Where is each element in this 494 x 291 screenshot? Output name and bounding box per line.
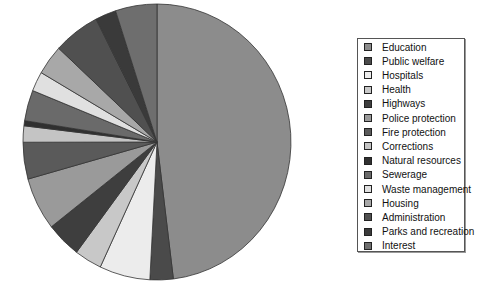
legend-label: Waste management — [382, 184, 471, 195]
legend-item-sewerage: Sewerage — [358, 168, 427, 182]
legend-swatch — [364, 71, 372, 79]
legend-item-corrections: Corrections — [358, 139, 433, 153]
legend-label: Interest — [382, 240, 415, 251]
legend-label: Highways — [382, 98, 425, 109]
legend-item-highways: Highways — [358, 97, 425, 111]
legend-swatch — [364, 228, 372, 236]
legend-label: Health — [382, 84, 411, 95]
legend-item-waste-management: Waste management — [358, 182, 471, 196]
legend-swatch — [364, 128, 372, 136]
legend-item-police-protection: Police protection — [358, 111, 456, 125]
legend-label: Education — [382, 42, 426, 53]
legend-swatch — [364, 100, 372, 108]
legend-label: Fire protection — [382, 127, 446, 138]
legend-swatch — [364, 157, 372, 165]
legend-label: Sewerage — [382, 169, 427, 180]
legend-item-interest: Interest — [358, 239, 415, 253]
legend-item-education: Education — [358, 40, 426, 54]
legend-item-natural-resources: Natural resources — [358, 154, 461, 168]
legend-swatch — [364, 185, 372, 193]
legend-label: Police protection — [382, 113, 456, 124]
legend-item-hospitals: Hospitals — [358, 68, 423, 82]
legend-swatch — [364, 114, 372, 122]
legend-item-public-welfare: Public welfare — [358, 54, 444, 68]
legend-item-housing: Housing — [358, 196, 419, 210]
legend-swatch — [364, 57, 372, 65]
pie-slice-education — [157, 4, 291, 279]
legend-label: Parks and recreation — [382, 226, 474, 237]
chart-legend: Education Public welfare Hospitals Healt… — [357, 38, 465, 252]
legend-swatch — [364, 171, 372, 179]
legend-item-administration: Administration — [358, 210, 445, 224]
legend-swatch — [364, 86, 372, 94]
legend-swatch — [364, 213, 372, 221]
legend-label: Corrections — [382, 141, 433, 152]
legend-label: Public welfare — [382, 56, 444, 67]
legend-swatch — [364, 242, 372, 250]
legend-swatch — [364, 43, 372, 51]
legend-item-fire-protection: Fire protection — [358, 125, 446, 139]
legend-label: Housing — [382, 198, 419, 209]
legend-swatch — [364, 142, 372, 150]
legend-label: Administration — [382, 212, 445, 223]
legend-item-parks-and-recreation: Parks and recreation — [358, 225, 474, 239]
legend-label: Natural resources — [382, 155, 461, 166]
legend-item-health: Health — [358, 83, 411, 97]
legend-swatch — [364, 199, 372, 207]
legend-label: Hospitals — [382, 70, 423, 81]
